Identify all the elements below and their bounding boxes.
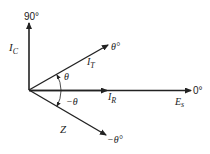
ir-label: IR [107,91,116,105]
it-phasor-arrow [29,45,108,90]
z-angle-label: −θ° [107,134,123,145]
neg-theta-label: −θ [66,96,78,107]
it-label: IT [86,56,95,70]
theta-arc [57,75,61,90]
ic-label: IC [8,41,19,56]
es-label: Es [174,96,184,109]
neg-theta-arc [57,91,61,106]
z-label: Z [60,123,67,135]
horizontal-axis-label: 0° [193,85,203,96]
vertical-axis-label: 90° [24,11,39,22]
theta-label: θ [64,71,69,82]
it-angle-label: θ° [111,41,120,52]
phasor-diagram: 90° IC 0° IR Es θ° IT −θ° Z θ −θ [0,0,210,154]
